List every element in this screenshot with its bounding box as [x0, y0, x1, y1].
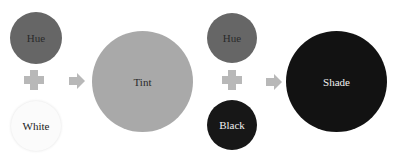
tint-circle: Tint — [92, 31, 193, 132]
hue-circle-left: Hue — [10, 12, 62, 64]
arrow-right-icon-right — [266, 74, 282, 90]
black-circle: Black — [207, 100, 257, 150]
hue-label-right: Hue — [223, 32, 241, 44]
plus-icon-left — [24, 70, 44, 90]
hue-circle-right: Hue — [207, 13, 257, 63]
plus-icon-right — [222, 70, 242, 90]
arrow-right-icon-left — [69, 73, 85, 89]
white-label: White — [23, 120, 50, 132]
shade-label: Shade — [323, 76, 350, 88]
tint-label: Tint — [134, 76, 152, 88]
black-label: Black — [219, 119, 245, 131]
white-circle: White — [11, 101, 61, 151]
hue-label-left: Hue — [27, 32, 45, 44]
shade-circle: Shade — [286, 31, 387, 132]
